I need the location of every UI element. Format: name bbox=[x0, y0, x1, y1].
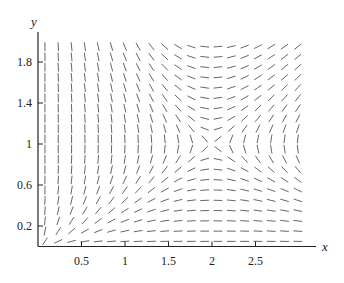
slope-segment bbox=[71, 53, 72, 61]
slope-segment bbox=[44, 227, 46, 235]
slope-segment bbox=[188, 179, 196, 181]
slope-segment bbox=[201, 117, 209, 119]
slope-segment bbox=[188, 96, 195, 100]
slope-segment bbox=[281, 199, 289, 201]
slope-segment bbox=[161, 188, 168, 192]
slope-segment bbox=[227, 56, 235, 58]
x-tick-label: 2 bbox=[209, 254, 215, 268]
slope-segment bbox=[228, 157, 235, 161]
slope-segment bbox=[202, 146, 208, 152]
slope-segment bbox=[70, 207, 73, 214]
slope-segment bbox=[150, 156, 152, 164]
slope-segment bbox=[201, 169, 209, 170]
slope-segment bbox=[241, 76, 248, 79]
slope-segment bbox=[188, 45, 196, 47]
slope-segment bbox=[242, 116, 248, 121]
slope-segment bbox=[294, 210, 302, 212]
slope-segment bbox=[71, 186, 72, 194]
slope-segment bbox=[94, 241, 102, 242]
slope-segment bbox=[175, 85, 181, 90]
slope-segment bbox=[241, 66, 248, 69]
slope-segment bbox=[188, 66, 196, 69]
slope-segment bbox=[214, 97, 222, 98]
slope-segment bbox=[84, 186, 86, 194]
slope-segment bbox=[228, 126, 234, 131]
slope-segment bbox=[201, 190, 209, 191]
slope-segment bbox=[268, 95, 274, 101]
slope-segment bbox=[201, 56, 209, 57]
slope-segment bbox=[162, 64, 168, 70]
slope-segment bbox=[254, 178, 261, 181]
slope-segment bbox=[98, 94, 99, 102]
slope-segment bbox=[214, 77, 222, 78]
slope-segment bbox=[161, 220, 169, 221]
slope-segment bbox=[134, 231, 142, 232]
slope-segment bbox=[176, 115, 181, 122]
slope-segment bbox=[201, 127, 208, 130]
slope-segment bbox=[81, 241, 89, 242]
slope-segment bbox=[188, 56, 196, 59]
slope-segment bbox=[227, 210, 235, 211]
slope-segment bbox=[162, 44, 168, 49]
slope-segment bbox=[175, 45, 182, 49]
slope-segment bbox=[269, 115, 273, 122]
slope-segment bbox=[58, 196, 59, 204]
slope-segment bbox=[228, 106, 235, 109]
slope-segment bbox=[149, 74, 153, 81]
slope-segment bbox=[214, 87, 222, 88]
slope-segment bbox=[124, 125, 125, 133]
slope-segment bbox=[268, 167, 274, 172]
slope-segment bbox=[268, 65, 275, 70]
slope-segment bbox=[187, 200, 195, 201]
slope-segment bbox=[177, 135, 178, 143]
x-tick-label: 1.5 bbox=[161, 254, 176, 268]
slope-segment bbox=[85, 94, 86, 102]
slope-segment bbox=[150, 166, 154, 173]
slope-segment bbox=[268, 55, 275, 59]
slope-segment bbox=[267, 220, 275, 221]
slope-segment bbox=[134, 220, 142, 222]
slope-segment bbox=[137, 155, 139, 163]
slope-segment bbox=[149, 43, 154, 49]
y-tick-label: 1.4 bbox=[17, 96, 32, 110]
slope-segment bbox=[123, 176, 126, 183]
slope-segment bbox=[283, 115, 287, 122]
slope-segment bbox=[136, 176, 140, 183]
slope-segment bbox=[83, 207, 87, 214]
slope-segment bbox=[124, 155, 125, 163]
slope-segment bbox=[256, 156, 261, 163]
slope-segment bbox=[135, 187, 140, 193]
slope-segment bbox=[215, 136, 221, 141]
slope-segment bbox=[137, 104, 139, 112]
slope-segment bbox=[295, 54, 301, 59]
slope-segment bbox=[81, 229, 88, 233]
slope-segment bbox=[241, 168, 248, 172]
slope-segment bbox=[110, 176, 113, 184]
slope-segment bbox=[269, 156, 273, 163]
slope-segment bbox=[282, 167, 288, 173]
slope-segment bbox=[123, 43, 126, 50]
slope-segment bbox=[241, 200, 249, 201]
slope-segment bbox=[55, 240, 62, 243]
slope-segment bbox=[281, 44, 288, 49]
y-tick-label: 1 bbox=[26, 137, 32, 151]
slope-segment bbox=[214, 169, 222, 170]
slope-segment bbox=[71, 84, 72, 92]
slope-segment bbox=[123, 187, 128, 194]
slope-segment bbox=[282, 75, 288, 80]
slope-segment bbox=[121, 208, 128, 212]
slope-segment bbox=[108, 219, 115, 223]
slope-segment bbox=[214, 67, 222, 68]
slope-segment bbox=[281, 178, 288, 182]
slope-segment bbox=[227, 76, 235, 78]
slope-segment bbox=[294, 199, 302, 201]
slope-segment bbox=[110, 53, 112, 61]
slope-segment bbox=[254, 221, 262, 222]
slope-segment bbox=[295, 85, 300, 91]
slope-segment bbox=[214, 118, 222, 120]
slope-segment bbox=[161, 199, 169, 202]
slope-segment bbox=[242, 156, 248, 162]
slope-segment bbox=[97, 176, 99, 184]
slope-segment bbox=[136, 74, 139, 81]
slope-segment bbox=[255, 167, 261, 172]
